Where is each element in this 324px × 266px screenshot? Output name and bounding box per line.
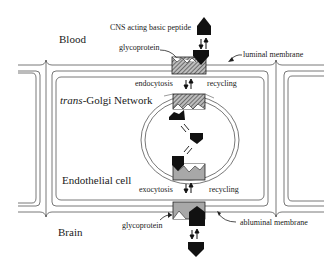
abluminal-pointer	[218, 213, 236, 222]
glycoprotein-top-pointer	[160, 50, 176, 57]
golgi-arrow-upper-icon	[181, 124, 189, 132]
golgi-arrow-lower-icon	[184, 146, 192, 154]
exocytosis-arrow-icon	[184, 183, 193, 193]
endocytosis-arrow-icon	[184, 79, 193, 89]
recycling-top-label: recycling	[207, 80, 237, 88]
region-brain-label: Brain	[58, 227, 82, 238]
golgi-suffix: -Golgi Network	[83, 94, 153, 106]
glycoprotein-top-label: glycoprotein	[119, 44, 159, 52]
abluminal-membrane-label: abluminal membrane	[240, 219, 308, 227]
peptide-blood-icon	[197, 17, 211, 35]
peptide-label: CNS acting basic peptide	[110, 24, 191, 32]
neighbor-cell-left	[18, 60, 46, 217]
peptide-golgi-top-icon	[169, 110, 185, 120]
endothelial-cell-label: Endothelial cell	[62, 175, 131, 186]
golgi-prefix: trans	[60, 94, 83, 106]
region-blood-label: Blood	[59, 34, 86, 45]
exocytosis-label: exocytosis	[139, 186, 173, 194]
neighbor-cell-right	[276, 60, 324, 217]
luminal-membrane	[18, 60, 324, 75]
peptide-free-icon	[190, 133, 203, 144]
endocytosis-label: endocytosis	[135, 80, 173, 88]
bidirectional-arrow-icon	[190, 229, 199, 239]
golgi-label: trans-Golgi Network	[60, 95, 153, 106]
glycoprotein-bottom-label: glycoprotein	[122, 222, 162, 230]
bbb-transcytosis-diagram: Blood CNS acting basic peptide glycoprot…	[0, 0, 324, 266]
luminal-membrane-label: luminal membrane	[243, 51, 303, 59]
recycling-bottom-label: recycling	[209, 186, 239, 194]
peptide-brain-icon	[188, 242, 204, 257]
bidirectional-arrow-icon	[199, 38, 208, 49]
